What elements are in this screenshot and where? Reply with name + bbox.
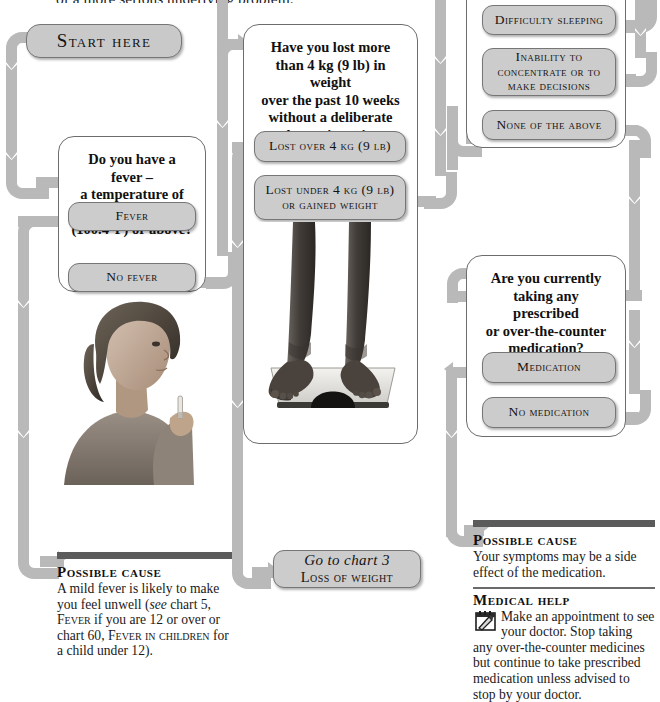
advice-divider xyxy=(473,587,655,588)
question-line: than 4 kg (9 lb) in weight xyxy=(276,57,386,91)
option-fever[interactable]: Fever xyxy=(68,202,196,231)
option-lost-under-4kg[interactable]: Lost under 4 kg (9 lb) or gained weight xyxy=(254,175,406,220)
advice-see: see xyxy=(149,597,166,612)
connector-lost-under-elbow xyxy=(424,172,457,209)
question-line: or over-the-counter xyxy=(486,323,606,339)
photo-feet-on-scale xyxy=(253,222,413,432)
connector-fever-down xyxy=(18,232,29,562)
question-line: taking any prescribed xyxy=(513,288,579,322)
appointment-calendar-icon xyxy=(475,610,496,631)
advice-right-cause-heading: Possible cause xyxy=(473,532,655,549)
connector-no-medication-up xyxy=(629,310,640,394)
option-none-of-the-above[interactable]: None of the above xyxy=(482,110,616,140)
goto-line-2: Loss of weight xyxy=(301,569,393,586)
advice-left: Possible cause A mild fever is likely to… xyxy=(57,552,237,659)
goto-chart-3-button[interactable]: Go to chart 3 Loss of weight xyxy=(273,550,421,588)
advice-right-help-heading: Medical help xyxy=(473,592,655,609)
question-line: Do you have a fever – xyxy=(88,151,175,185)
advice-text: chart 5, xyxy=(167,597,211,612)
question-medication-text: Are you currently taking any prescribed … xyxy=(467,256,625,364)
advice-right: Possible cause Your symptoms may be a si… xyxy=(473,520,655,702)
option-inability-to-concentrate[interactable]: Inability to concentrate or to make deci… xyxy=(482,48,616,96)
question-line: Have you lost more xyxy=(271,39,390,55)
advice-right-help-body: Make an appointment to see your doctor. … xyxy=(473,609,655,702)
question-line: over the past 10 weeks xyxy=(261,92,399,108)
start-here-button[interactable]: Start here xyxy=(26,24,182,58)
advice-chart-ref: Fever xyxy=(57,612,91,627)
question-line: without a deliberate xyxy=(268,109,392,125)
advice-rule xyxy=(57,552,237,559)
option-no-medication[interactable]: No medication xyxy=(482,397,616,428)
advice-right-cause-body: Your symptoms may be a side effect of th… xyxy=(473,549,655,580)
option-no-fever[interactable]: No fever xyxy=(68,263,196,292)
photo-woman-taking-temperature xyxy=(58,300,198,485)
connector-start-to-q1 xyxy=(6,56,17,176)
advice-help-text: Make an appointment to see your doctor. … xyxy=(473,609,654,702)
connector-inability-up xyxy=(635,0,646,58)
option-difficulty-sleeping[interactable]: Difficulty sleeping xyxy=(482,5,616,35)
question-line: Are you currently xyxy=(491,270,602,286)
advice-left-heading: Possible cause xyxy=(57,564,237,581)
goto-line-1: Go to chart 3 xyxy=(304,552,390,569)
advice-chart-ref: Fever in children xyxy=(108,628,210,643)
connector-lost-over-down xyxy=(232,158,243,568)
option-medication[interactable]: Medication xyxy=(482,352,616,383)
connector-lost-under-up xyxy=(435,0,446,176)
advice-left-body: A mild fever is likely to make you feel … xyxy=(57,581,237,659)
advice-rule xyxy=(473,520,655,527)
option-lost-over-4kg[interactable]: Lost over 4 kg (9 lb) xyxy=(254,131,406,162)
